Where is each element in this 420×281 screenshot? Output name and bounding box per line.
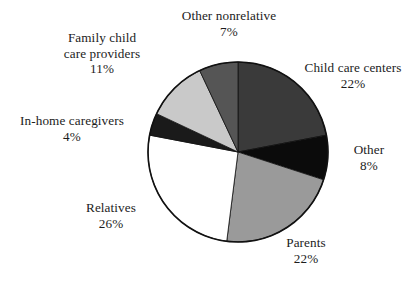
pie-label-relatives-value: 26% bbox=[62, 216, 160, 232]
pie-label-family-child-care-providers: Family child care providers 11% bbox=[44, 30, 160, 77]
pie-label-child-care-centers-name: Child care centers bbox=[288, 60, 418, 76]
pie-label-other-nonrelative: Other nonrelative 7% bbox=[163, 8, 295, 39]
pie-label-other-name: Other bbox=[336, 142, 402, 158]
pie-chart-figure: Other nonrelative 7% Child care centers … bbox=[0, 0, 420, 281]
pie-label-family-child-care-providers-name-line2: care providers bbox=[44, 46, 160, 62]
pie-slice bbox=[148, 135, 238, 241]
pie-label-parents-name: Parents bbox=[260, 235, 352, 251]
pie-label-other-nonrelative-name: Other nonrelative bbox=[163, 8, 295, 24]
pie-label-relatives-name: Relatives bbox=[62, 200, 160, 216]
pie-label-in-home-caregivers-value: 4% bbox=[2, 129, 142, 145]
pie-label-other: Other 8% bbox=[336, 142, 402, 173]
pie-label-in-home-caregivers: In-home caregivers 4% bbox=[2, 113, 142, 144]
pie-label-other-value: 8% bbox=[336, 158, 402, 174]
pie-label-child-care-centers: Child care centers 22% bbox=[288, 60, 418, 91]
pie-label-in-home-caregivers-name: In-home caregivers bbox=[2, 113, 142, 129]
pie-label-parents-value: 22% bbox=[260, 251, 352, 267]
pie-label-relatives: Relatives 26% bbox=[62, 200, 160, 231]
pie-label-other-nonrelative-value: 7% bbox=[163, 24, 295, 40]
pie-label-child-care-centers-value: 22% bbox=[288, 76, 418, 92]
pie-label-family-child-care-providers-value: 11% bbox=[44, 61, 160, 77]
pie-label-parents: Parents 22% bbox=[260, 235, 352, 266]
pie-label-family-child-care-providers-name-line1: Family child bbox=[44, 30, 160, 46]
